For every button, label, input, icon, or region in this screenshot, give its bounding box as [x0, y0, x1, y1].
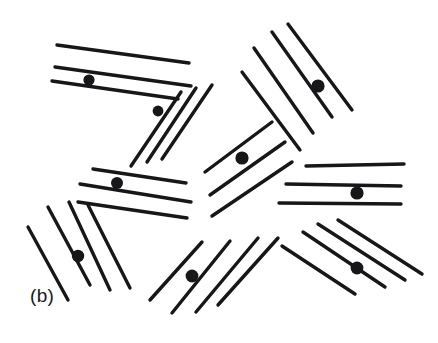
domain-line — [279, 203, 401, 204]
defect-point-dot — [83, 74, 94, 85]
defect-point-dot — [351, 262, 364, 275]
defect-point-dot — [235, 151, 248, 164]
domain-line — [306, 164, 404, 166]
domain-texture-diagram — [0, 0, 438, 343]
figure-panel: (b) — [0, 0, 438, 343]
defect-point-dot — [311, 79, 324, 92]
defect-point-dot — [350, 186, 363, 199]
defect-point-dot — [111, 177, 123, 189]
domain-line — [286, 184, 401, 186]
defect-point-dot — [186, 270, 199, 283]
defect-point-dot — [153, 106, 164, 117]
panel-label: (b) — [30, 286, 54, 305]
defect-point-dot — [72, 250, 84, 262]
figure-background — [0, 0, 438, 343]
